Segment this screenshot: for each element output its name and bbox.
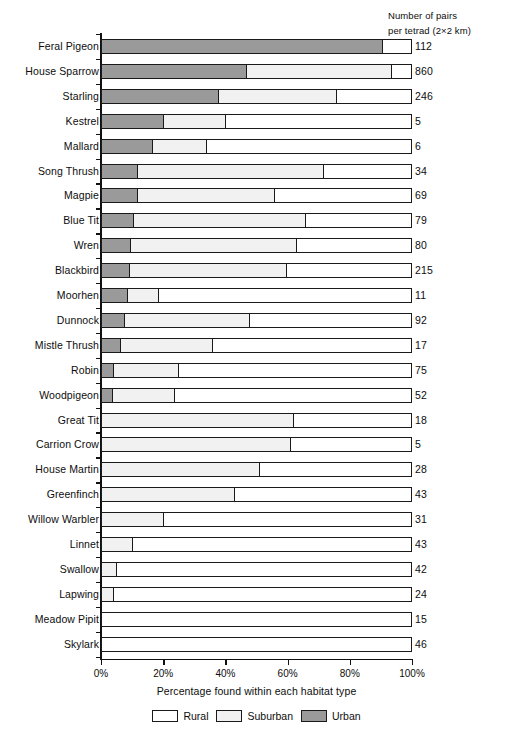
category-label: Skylark (0, 637, 99, 652)
category-label: Meadow Pipit (0, 612, 99, 627)
bar-row: Linnet43 (101, 537, 412, 552)
category-label: Wren (0, 238, 99, 253)
y-axis-tick (96, 657, 102, 658)
bar-row: Magpie69 (101, 188, 412, 203)
x-axis-tick (101, 659, 102, 665)
y-axis-tick (96, 358, 102, 359)
bar-segment-urban (102, 90, 219, 103)
bar-segment-urban (102, 65, 247, 78)
stacked-bar (101, 288, 412, 303)
pairs-per-tetrad-value: 11 (415, 288, 426, 303)
bar-segment-suburban (114, 364, 179, 377)
habitat-stacked-bar-chart: Number of pairs per tetrad (2×2 km) Fera… (0, 0, 507, 747)
bar-segment-suburban (153, 140, 207, 153)
pairs-per-tetrad-value: 5 (415, 114, 421, 129)
bar-segment-rural (275, 189, 411, 202)
bar-segment-rural (297, 239, 411, 252)
stacked-bar (101, 188, 412, 203)
bar-row: Greenfinch43 (101, 487, 412, 502)
bar-segment-rural (133, 538, 411, 551)
bar-segment-rural (164, 513, 411, 526)
bar-row: House Sparrow860 (101, 64, 412, 79)
x-axis-tick-label: 80% (340, 668, 360, 680)
stacked-bar (101, 89, 412, 104)
bar-segment-urban (102, 314, 125, 327)
value-column-header-line1: Number of pairs (388, 8, 506, 23)
bar-segment-urban (102, 140, 153, 153)
bar-segment-urban (102, 115, 164, 128)
pairs-per-tetrad-value: 34 (415, 164, 427, 179)
stacked-bar (101, 462, 412, 477)
bar-row: Moorhen11 (101, 288, 412, 303)
legend-label: Urban (332, 710, 361, 722)
category-label: Swallow (0, 562, 99, 577)
stacked-bar (101, 637, 412, 652)
pairs-per-tetrad-value: 79 (415, 213, 427, 228)
y-axis-tick (96, 34, 102, 35)
stacked-bar (101, 164, 412, 179)
bar-segment-rural (287, 264, 411, 277)
bar-segment-suburban (102, 588, 114, 601)
x-axis-tick-label: 0% (94, 668, 108, 680)
bar-row: Robin75 (101, 363, 412, 378)
x-axis-tick (288, 659, 289, 665)
bar-segment-suburban (125, 314, 250, 327)
y-axis-tick (96, 258, 102, 259)
stacked-bar (101, 263, 412, 278)
bar-row: Willow Warbler31 (101, 512, 412, 527)
pairs-per-tetrad-value: 246 (415, 89, 433, 104)
y-axis-tick (96, 84, 102, 85)
urban-swatch (301, 710, 327, 722)
x-axis-tick-label: 40% (215, 668, 235, 680)
bar-segment-rural (102, 613, 411, 626)
bar-segment-rural (392, 65, 411, 78)
y-axis-tick (96, 507, 102, 508)
y-axis-tick (96, 233, 102, 234)
bar-segment-suburban (138, 165, 325, 178)
y-axis-tick (96, 283, 102, 284)
bar-segment-suburban (164, 115, 226, 128)
bar-row: Great Tit18 (101, 413, 412, 428)
bar-row: Woodpigeon52 (101, 388, 412, 403)
x-axis-tick (163, 659, 164, 665)
pairs-per-tetrad-value: 5 (415, 437, 421, 452)
bar-segment-suburban (134, 214, 306, 227)
bar-segment-suburban (102, 488, 235, 501)
bar-segment-rural (324, 165, 411, 178)
y-axis-tick (96, 333, 102, 334)
pairs-per-tetrad-value: 46 (415, 637, 427, 652)
pairs-per-tetrad-value: 92 (415, 313, 427, 328)
bar-segment-rural (294, 414, 411, 427)
stacked-bar (101, 213, 412, 228)
pairs-per-tetrad-value: 80 (415, 238, 427, 253)
y-axis-tick (96, 582, 102, 583)
bar-segment-suburban (130, 264, 288, 277)
bar-segment-urban (102, 165, 138, 178)
bar-segment-suburban (128, 289, 159, 302)
bar-segment-suburban (102, 463, 260, 476)
legend-label: Rural (183, 710, 208, 722)
bar-row: Kestrel5 (101, 114, 412, 129)
bar-segment-urban (102, 389, 113, 402)
x-axis-title: Percentage found within each habitat typ… (101, 685, 412, 697)
y-axis-tick (96, 59, 102, 60)
value-column-header: Number of pairs per tetrad (2×2 km) (388, 8, 506, 38)
pairs-per-tetrad-value: 52 (415, 388, 427, 403)
bar-segment-suburban (138, 189, 276, 202)
chart-legend: RuralSuburbanUrban (101, 710, 412, 722)
x-axis-tick-label: 20% (153, 668, 173, 680)
category-label: Robin (0, 363, 99, 378)
pairs-per-tetrad-value: 43 (415, 487, 427, 502)
bar-segment-suburban (102, 414, 294, 427)
bar-segment-suburban (219, 90, 336, 103)
category-label: Willow Warbler (0, 512, 99, 527)
legend-label: Suburban (247, 710, 293, 722)
pairs-per-tetrad-value: 24 (415, 587, 427, 602)
stacked-bar (101, 512, 412, 527)
pairs-per-tetrad-value: 42 (415, 562, 427, 577)
bar-row: Carrion Crow5 (101, 437, 412, 452)
suburban-swatch (216, 710, 242, 722)
bar-segment-suburban (102, 538, 133, 551)
stacked-bar (101, 363, 412, 378)
category-label: Woodpigeon (0, 388, 99, 403)
